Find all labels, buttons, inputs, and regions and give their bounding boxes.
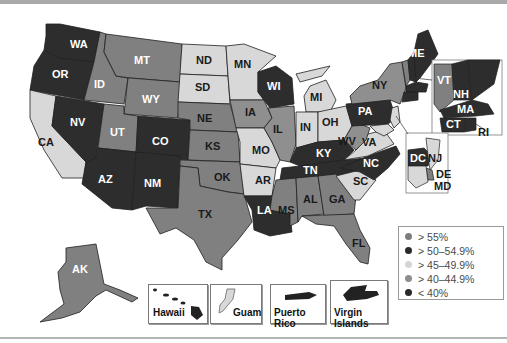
label-ny: NY bbox=[372, 79, 388, 91]
label-wi: WI bbox=[267, 80, 280, 92]
legend-label: < 40% bbox=[418, 287, 448, 299]
state-mi[interactable] bbox=[296, 66, 336, 112]
label-pa: PA bbox=[358, 105, 373, 117]
label-vt: VT bbox=[437, 74, 451, 86]
legend-label: > 40–44.9% bbox=[418, 273, 474, 285]
label-ma: MA bbox=[457, 103, 474, 115]
label-la: LA bbox=[257, 204, 272, 216]
label-ga: GA bbox=[329, 193, 346, 205]
label-nm: NM bbox=[144, 177, 161, 189]
legend-item-40-44: > 40–44.9% bbox=[405, 272, 474, 285]
label-mi: MI bbox=[310, 91, 322, 103]
inset-ri[interactable] bbox=[464, 118, 476, 132]
label-tx: TX bbox=[198, 208, 213, 220]
inset-hawaii: Hawaii bbox=[148, 284, 208, 324]
guam-label: Guam bbox=[233, 307, 261, 318]
label-md: MD bbox=[434, 180, 451, 192]
legend-dot-icon bbox=[405, 275, 412, 282]
label-va: VA bbox=[362, 136, 377, 148]
inset-virgin-islands: Virgin Islands bbox=[330, 280, 388, 324]
label-ks: KS bbox=[205, 140, 220, 152]
label-ms: MS bbox=[278, 204, 295, 216]
label-fl: FL bbox=[352, 237, 366, 249]
label-sc: SC bbox=[353, 175, 368, 187]
label-ar: AR bbox=[255, 174, 271, 186]
label-nd: ND bbox=[196, 54, 212, 66]
state-ak[interactable] bbox=[40, 244, 138, 322]
label-sd: SD bbox=[195, 81, 210, 93]
bottom-frame-bar bbox=[0, 337, 507, 339]
legend-item-gt55: > 55% bbox=[405, 230, 448, 243]
legend-item-50-54: > 50–54.9% bbox=[405, 244, 474, 257]
hawaii-label: Hawaii bbox=[153, 307, 185, 318]
label-in: IN bbox=[300, 121, 311, 133]
label-ne: NE bbox=[197, 112, 212, 124]
legend: > 55% > 50–54.9% > 45–49.9% > 40–44.9% <… bbox=[398, 226, 504, 300]
state-nj-small[interactable] bbox=[390, 106, 400, 128]
label-ok: OK bbox=[214, 171, 231, 183]
label-mn: MN bbox=[234, 58, 251, 70]
label-ca: CA bbox=[38, 136, 54, 148]
label-dc: DC bbox=[410, 152, 426, 164]
label-al: AL bbox=[303, 193, 318, 205]
label-me: ME bbox=[408, 47, 425, 59]
legend-item-45-49: > 45–49.9% bbox=[405, 258, 474, 271]
state-ct-small[interactable] bbox=[402, 92, 418, 102]
label-wv: WV bbox=[338, 135, 356, 147]
legend-label: > 55% bbox=[418, 231, 448, 243]
label-nh: NH bbox=[453, 88, 469, 100]
label-az: AZ bbox=[98, 173, 113, 185]
legend-item-lt40: < 40% bbox=[405, 286, 448, 299]
label-de: DE bbox=[436, 168, 451, 180]
legend-dot-icon bbox=[405, 247, 412, 254]
legend-label: > 50–54.9% bbox=[418, 245, 474, 257]
label-mt: MT bbox=[134, 54, 150, 66]
label-ut: UT bbox=[110, 126, 125, 138]
legend-dot-icon bbox=[405, 289, 412, 296]
label-wy: WY bbox=[142, 93, 160, 105]
inset-guam: Guam bbox=[210, 284, 262, 324]
label-wa: WA bbox=[70, 38, 88, 50]
label-ct: CT bbox=[446, 118, 461, 130]
label-ia: IA bbox=[245, 106, 256, 118]
label-mo: MO bbox=[252, 144, 270, 156]
puerto-rico-label: Puerto Rico bbox=[274, 307, 325, 329]
label-il: IL bbox=[273, 123, 283, 135]
label-nc: NC bbox=[363, 157, 379, 169]
label-nj: NJ bbox=[428, 152, 442, 164]
label-id: ID bbox=[94, 78, 105, 90]
label-tn: TN bbox=[303, 164, 318, 176]
legend-label: > 45–49.9% bbox=[418, 259, 474, 271]
label-ak: AK bbox=[72, 263, 88, 275]
label-nv: NV bbox=[70, 116, 86, 128]
label-co: CO bbox=[152, 135, 169, 147]
label-ky: KY bbox=[316, 147, 332, 159]
legend-dot-icon bbox=[405, 261, 412, 268]
inset-puerto-rico: Puerto Rico bbox=[270, 284, 326, 324]
state-ma-small[interactable] bbox=[406, 82, 428, 92]
label-oh: OH bbox=[322, 116, 339, 128]
label-or: OR bbox=[52, 68, 69, 80]
virgin-islands-label: Virgin Islands bbox=[334, 307, 387, 329]
label-ri: RI bbox=[478, 126, 489, 138]
legend-dot-icon bbox=[405, 233, 412, 240]
